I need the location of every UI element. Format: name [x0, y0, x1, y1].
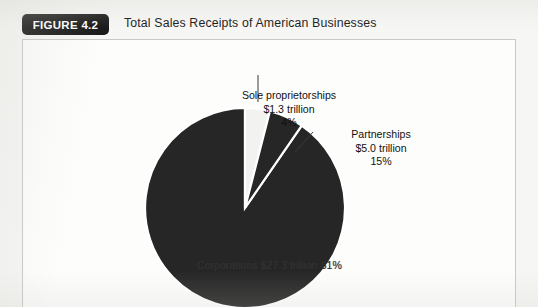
label-corporations: Corporations $27.3 trillion 81% [197, 259, 337, 273]
label-sole-proprietorships: Sole proprietorships $1.3 trillion 4% [219, 89, 359, 130]
label-corporations-share: 81% [321, 259, 342, 271]
label-corporations-name: Corporations [197, 259, 258, 271]
figure-title: Total Sales Receipts of American Busines… [124, 16, 377, 30]
figure-frame: Sole proprietorships $1.3 trillion 4% Pa… [22, 39, 516, 307]
figure-header: FIGURE 4.2 Total Sales Receipts of Ameri… [0, 0, 538, 40]
label-partnerships: Partnerships $5.0 trillion 15% [320, 128, 442, 169]
label-sole-value: $1.3 trillion [219, 103, 359, 117]
label-sole-name: Sole proprietorships [219, 89, 359, 103]
figure-number-badge: FIGURE 4.2 [22, 14, 109, 35]
label-corporations-value: $27.3 trillion [261, 259, 318, 271]
label-partnerships-name: Partnerships [320, 128, 442, 142]
label-partnerships-share: 15% [320, 155, 442, 169]
label-partnerships-value: $5.0 trillion [320, 142, 442, 156]
figure-page: FIGURE 4.2 Total Sales Receipts of Ameri… [0, 0, 538, 307]
